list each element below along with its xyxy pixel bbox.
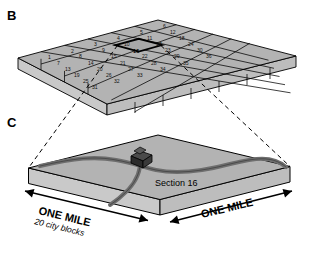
section-number: 10 xyxy=(124,41,130,47)
section-detail-panel: Section 16 ONE MILE 20 city blocks ONE M… xyxy=(25,135,292,238)
section-number: 27 xyxy=(128,66,134,72)
figure-root: B C xyxy=(0,0,313,255)
section-number: 33 xyxy=(137,72,143,78)
township-grid-panel: 1 2 3 4 5 6 7 8 9 10 11 12 13 14 15 16 1… xyxy=(18,20,296,115)
section-number: 4 xyxy=(117,35,120,41)
section-number: 12 xyxy=(170,29,176,35)
panel-letter-b: B xyxy=(7,9,16,22)
section-number: 34 xyxy=(160,66,166,72)
section-number: 2 xyxy=(71,48,74,54)
dimension-left-arrowhead-end xyxy=(139,214,149,223)
section-number: 13 xyxy=(65,66,71,72)
section-number: 25 xyxy=(83,78,89,84)
section-number: 32 xyxy=(114,78,120,84)
section-number-highlighted: 16 xyxy=(133,48,139,54)
section-number: 31 xyxy=(92,84,98,90)
dimension-right-arrowhead-start xyxy=(170,216,180,225)
section-detail-label: Section 16 xyxy=(155,178,198,188)
section-number: 14 xyxy=(88,60,94,66)
section-number: 3 xyxy=(94,41,97,47)
section-number: 22 xyxy=(142,53,148,59)
section-number: 9 xyxy=(102,47,105,53)
dimension-left-arrowhead-start xyxy=(25,189,35,198)
section-number: 24 xyxy=(188,41,194,47)
section-number: 28 xyxy=(151,60,157,66)
section-number: 36 xyxy=(206,53,212,59)
section-number: 1 xyxy=(48,54,51,60)
section-number: 15 xyxy=(111,53,117,59)
section-number: 7 xyxy=(57,60,60,66)
section-number: 21 xyxy=(120,60,126,66)
section-number: 35 xyxy=(183,60,189,66)
section-number: 6 xyxy=(163,23,166,29)
section-number: 19 xyxy=(74,72,80,78)
section-number: 18 xyxy=(179,35,185,41)
figure-artwork: 1 2 3 4 5 6 7 8 9 10 11 12 13 14 15 16 1… xyxy=(0,0,313,255)
panel-letter-c: C xyxy=(7,116,16,129)
section-number: 26 xyxy=(106,72,112,78)
section-number: 8 xyxy=(79,53,82,59)
dimension-right-arrowhead-end xyxy=(283,189,293,198)
section-number: 30 xyxy=(197,47,203,53)
section-number: 5 xyxy=(140,29,143,35)
section-number: 11 xyxy=(147,35,152,41)
